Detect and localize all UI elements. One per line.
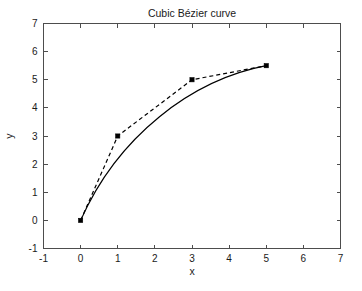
x-tick-label: -1 xyxy=(39,253,48,264)
y-tick-label: 4 xyxy=(32,102,38,113)
y-tick-label: 6 xyxy=(32,46,38,57)
x-tick-label: 2 xyxy=(152,253,158,264)
figure-background xyxy=(0,0,362,291)
control-point-marker xyxy=(116,134,120,138)
y-axis-label: y xyxy=(3,133,15,139)
control-point-marker xyxy=(190,78,194,82)
y-tick-label: 3 xyxy=(32,131,38,142)
y-tick-label: -1 xyxy=(29,243,38,254)
x-tick-label: 0 xyxy=(78,253,84,264)
x-tick-label: 4 xyxy=(226,253,232,264)
x-tick-label: 5 xyxy=(263,253,269,264)
control-point-marker xyxy=(79,218,83,222)
y-tick-label: 2 xyxy=(32,159,38,170)
x-tick-label: 7 xyxy=(338,253,344,264)
x-axis-label: x xyxy=(189,265,195,277)
x-tick-label: 3 xyxy=(189,253,195,264)
plot-canvas: -101234567 -101234567 Cubic Bézier curve… xyxy=(0,0,362,291)
page-title: Cubic Bézier curve xyxy=(148,7,236,19)
y-tick-label: 5 xyxy=(32,74,38,85)
x-tick-label: 6 xyxy=(301,253,307,264)
y-tick-label: 1 xyxy=(32,187,38,198)
chart-figure: -101234567 -101234567 Cubic Bézier curve… xyxy=(0,0,362,291)
y-tick-label: 7 xyxy=(32,18,38,29)
y-tick-label: 0 xyxy=(32,215,38,226)
x-tick-label: 1 xyxy=(115,253,121,264)
control-point-marker xyxy=(264,64,268,68)
